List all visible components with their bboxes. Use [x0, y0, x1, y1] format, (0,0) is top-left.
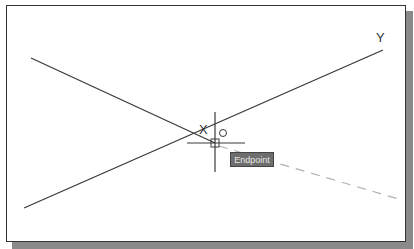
- point-label-y: Y: [376, 30, 385, 45]
- point-label-x: X: [199, 122, 208, 137]
- line-x: [31, 58, 215, 143]
- endpoint-snap-tooltip: Endpoint: [230, 152, 274, 167]
- snap-marker-icon: [220, 130, 227, 137]
